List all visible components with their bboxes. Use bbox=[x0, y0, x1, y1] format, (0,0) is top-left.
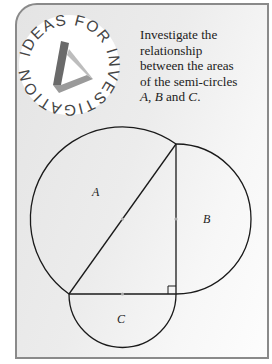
label-b: B bbox=[203, 212, 211, 226]
midpoint-a bbox=[121, 217, 124, 220]
midpoint-c bbox=[121, 292, 124, 295]
right-angle-marker bbox=[168, 286, 176, 294]
label-a: A bbox=[91, 185, 100, 199]
semicircle-a bbox=[30, 127, 176, 294]
semicircle-b bbox=[176, 144, 251, 294]
label-c: C bbox=[117, 312, 126, 326]
semicircles-diagram: A B C bbox=[0, 0, 272, 364]
midpoint-b bbox=[174, 217, 177, 220]
